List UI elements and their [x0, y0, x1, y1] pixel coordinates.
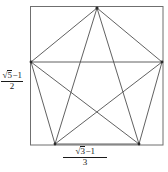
diagonal-right-to-bottom-left: [55, 62, 162, 144]
pentagram-diagonals: [31, 8, 162, 144]
bottom-label-denominator: 3: [63, 158, 107, 168]
left-label-numerator: √5−1: [1, 70, 23, 82]
vertex-marker-bottom-left: [54, 143, 57, 146]
pentagon-outline: [31, 8, 162, 144]
left-label-radical: √5: [2, 70, 12, 80]
vertex-marker-right: [161, 61, 164, 64]
vertex-marker-left: [30, 61, 33, 64]
left-side-length-label: √5−1 2: [1, 70, 23, 92]
diagonal-bottom-right-to-left: [31, 62, 139, 144]
bottom-label-minus-one: −1: [85, 146, 95, 156]
bottom-side-length-label: √3−1 3: [63, 146, 107, 168]
bottom-label-numerator: √3−1: [63, 146, 107, 158]
diagonal-bottom-left-to-apex: [55, 8, 97, 144]
vertex-marker-bottom-right: [138, 143, 141, 146]
bottom-label-radicand: 3: [80, 146, 86, 156]
vertex-marker-apex-top: [95, 6, 98, 9]
bounding-frame-rect: [31, 7, 164, 146]
left-label-radicand: 5: [7, 70, 13, 80]
bottom-label-radical: √3: [75, 146, 85, 156]
left-label-denominator: 2: [1, 82, 23, 92]
left-label-minus-one: −1: [12, 70, 22, 80]
diagonal-apex-to-bottom-right: [97, 8, 139, 144]
geometric-figure: √5−1 2 √3−1 3: [0, 0, 168, 172]
